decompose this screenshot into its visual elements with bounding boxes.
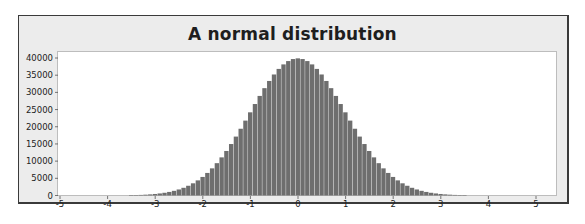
histogram-bar [362,144,366,195]
histogram-bar [139,195,143,196]
histogram-bar [415,189,419,195]
histogram-bar [148,194,152,195]
histogram-bar [296,58,300,195]
histogram-bar [396,180,400,195]
histogram-bar [353,129,357,196]
histogram-bar [334,96,338,196]
histogram-bar [200,177,204,196]
histogram-bar [453,195,457,196]
histogram-bar [400,183,404,195]
histogram-bar [243,121,247,196]
histogram-bar [158,193,162,195]
y-tick-label: 30000 [26,87,53,97]
histogram-bar [291,59,295,195]
histogram-bar [253,104,257,195]
histogram-bar [391,177,395,196]
x-tick-label: -2 [199,199,207,209]
x-tick-label: -3 [151,199,159,209]
histogram-bar [219,157,223,195]
histogram-bar [338,104,342,195]
y-tick-label: 0 [48,191,53,201]
histogram-bar [329,88,333,195]
y-tick-label: 5000 [31,173,53,183]
histogram-bar [196,180,200,195]
histogram-bar [434,193,438,195]
histogram-bar [272,74,276,195]
y-tick-label: 10000 [26,156,53,166]
y-tick-label: 25000 [26,105,53,115]
histogram-bar [438,194,442,196]
x-tick-label: 5 [533,199,538,209]
histogram-bar [234,137,238,196]
histogram-bar [191,183,195,195]
x-axis: -5-4-3-2-1012345 [56,196,539,209]
x-tick-label: -5 [56,199,64,209]
y-tick-label: 15000 [26,139,53,149]
x-tick-label: -4 [103,199,111,209]
histogram-bars [129,58,467,195]
histogram-bar [281,64,285,195]
histogram-bar [448,195,452,196]
histogram-bar [167,192,171,196]
histogram-bar [424,192,428,196]
histogram-bar [229,144,233,195]
histogram-bar [186,186,190,196]
histogram-bar [153,194,157,196]
y-tick-label: 35000 [26,70,53,80]
histogram-bar [143,195,147,196]
y-tick-label: 40000 [26,53,53,63]
histogram-bar [129,195,133,196]
x-tick-label: 4 [486,199,491,209]
histogram-bar [367,151,371,196]
histogram-bar [419,191,423,196]
x-tick-label: 1 [343,199,348,209]
histogram-bar [181,188,185,196]
histogram-bar [277,69,281,196]
histogram-bar [324,81,328,196]
histogram-bar [248,112,252,195]
y-axis: 0500010000150002000025000300003500040000 [26,53,58,201]
histogram-bar [300,59,304,195]
x-tick-label: 3 [438,199,443,209]
histogram-bar [457,195,461,196]
histogram-bar [348,121,352,196]
histogram-bar [205,173,209,196]
histogram-bar [319,74,323,195]
histogram-bar [410,188,414,196]
histogram-bar [429,193,433,196]
histogram-bar [405,186,409,196]
histogram-bar [224,151,228,196]
histogram-bar [372,157,376,195]
histogram-bar [310,64,314,195]
histogram-bar [343,112,347,195]
histogram-bar [239,129,243,196]
histogram-bar [210,168,214,195]
histogram-bar [315,69,319,196]
histogram-bar [462,195,466,196]
histogram-bar [386,173,390,196]
histogram-bar [177,189,181,195]
histogram-bar [172,191,176,196]
x-tick-label: 0 [295,199,300,209]
histogram-bar [267,81,271,196]
histogram-bar [443,194,447,195]
histogram-chart: 0500010000150002000025000300003500040000… [0,0,585,224]
histogram-bar [381,168,385,195]
histogram-bar [358,137,362,196]
histogram-bar [134,195,138,196]
histogram-bar [258,96,262,196]
histogram-bar [305,61,309,195]
y-tick-label: 20000 [26,122,53,132]
histogram-bar [215,163,219,195]
x-tick-label: 2 [390,199,395,209]
histogram-bar [262,88,266,195]
histogram-bar [377,163,381,195]
x-tick-label: -1 [246,199,254,209]
histogram-bar [286,61,290,195]
histogram-bar [162,193,166,196]
